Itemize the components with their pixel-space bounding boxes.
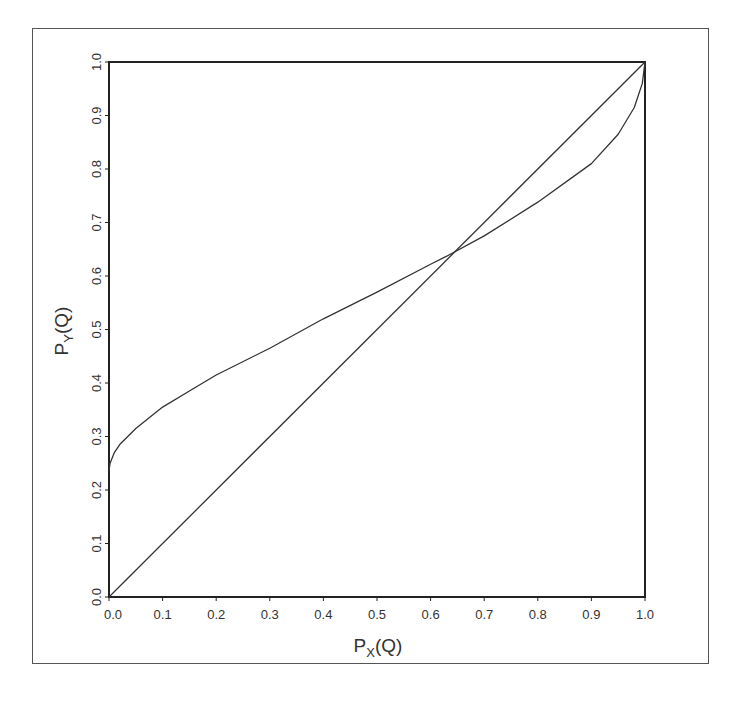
y-tick-label: 0.0 bbox=[89, 588, 104, 606]
y-tick-label: 0.6 bbox=[89, 267, 104, 285]
y-tick-label: 0.5 bbox=[89, 320, 104, 338]
y-axis-label: PY(Q) bbox=[51, 307, 76, 356]
x-tick-label: 1.0 bbox=[636, 607, 654, 622]
y-tick-label: 0.4 bbox=[89, 374, 104, 392]
y-tick-label: 0.8 bbox=[89, 160, 104, 178]
series-curve-line bbox=[109, 62, 645, 471]
x-tick-label: 0.7 bbox=[475, 607, 493, 622]
y-tick-label: 1.0 bbox=[89, 53, 104, 71]
series-diagonal-line bbox=[109, 62, 645, 597]
x-tick-label: 0.1 bbox=[154, 607, 172, 622]
x-tick-label: 0.8 bbox=[529, 607, 547, 622]
y-tick-label: 0.7 bbox=[89, 213, 104, 231]
y-axis-ticks: 0.00.10.20.30.40.50.60.70.80.91.0 bbox=[89, 53, 109, 606]
y-tick-label: 0.3 bbox=[89, 427, 104, 445]
chart: 0.00.10.20.30.40.50.60.70.80.91.0 0.00.1… bbox=[0, 0, 739, 705]
y-tick-label: 0.1 bbox=[89, 534, 104, 552]
series-layer bbox=[109, 62, 645, 597]
x-tick-label: 0.9 bbox=[582, 607, 600, 622]
x-tick-label: 0.0 bbox=[104, 607, 122, 622]
y-tick-label: 0.9 bbox=[89, 106, 104, 124]
x-tick-label: 0.2 bbox=[207, 607, 225, 622]
x-tick-label: 0.6 bbox=[422, 607, 440, 622]
y-tick-label: 0.2 bbox=[89, 481, 104, 499]
x-axis-label: PX(Q) bbox=[354, 635, 403, 660]
x-tick-label: 0.4 bbox=[314, 607, 332, 622]
x-tick-label: 0.3 bbox=[261, 607, 279, 622]
x-tick-label: 0.5 bbox=[368, 607, 386, 622]
x-axis-ticks: 0.00.10.20.30.40.50.60.70.80.91.0 bbox=[104, 597, 654, 622]
